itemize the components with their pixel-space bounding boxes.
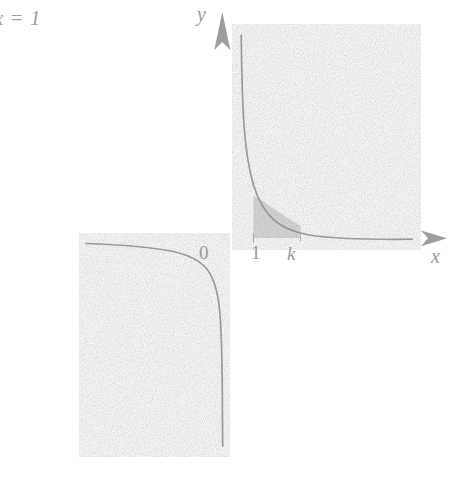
y-axis-label: y [197, 4, 206, 24]
x-tick-label-one: 1 [251, 243, 261, 262]
curve-branch-negative [86, 244, 223, 447]
equation-annotation: x = 1 [0, 8, 41, 29]
x-tick-label-k: k [287, 244, 295, 263]
x-axis-label: x [431, 246, 440, 266]
hyperbola-figure: x = 1 y x 0 1 k [0, 0, 450, 497]
origin-label: 0 [199, 243, 209, 262]
x-axis-arrowhead [421, 231, 447, 247]
figure-canvas [0, 0, 450, 497]
